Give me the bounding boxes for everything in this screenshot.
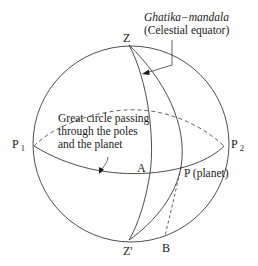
label-pole-2: P2 — [231, 137, 244, 153]
equator-subtitle: (Celestial equator) — [144, 24, 229, 37]
label-pole-1: P1 — [12, 137, 25, 153]
great-circle-arrowhead-icon — [99, 167, 104, 174]
label-nadir: Z' — [123, 244, 133, 258]
label-point-a: A — [137, 161, 146, 175]
label-planet: P (planet) — [184, 167, 229, 180]
label-zenith: Z — [123, 31, 130, 45]
celestial-sphere-diagram: Z Z' P1 P2 A P (planet) B Ghatika−mandal… — [0, 0, 258, 266]
great-circle-note-line1: Great circle passing — [58, 112, 150, 125]
equator-arrowhead-icon — [142, 70, 150, 76]
label-point-b: B — [162, 241, 170, 255]
equator-title: Ghatika−mandala — [144, 11, 229, 23]
meridian-through-planet — [129, 45, 182, 240]
great-circle-note-line3: and the planet — [58, 138, 123, 151]
great-circle-note-line2: through the poles — [58, 125, 138, 138]
great-circle-leader-line — [101, 157, 108, 170]
